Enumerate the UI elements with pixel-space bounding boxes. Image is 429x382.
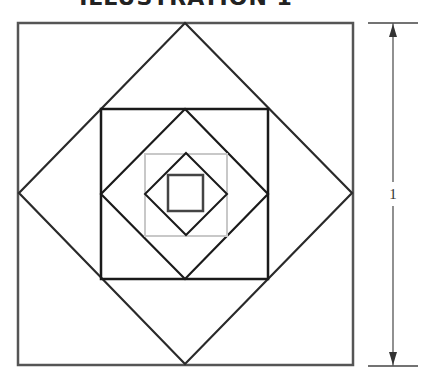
- arrow-up-icon: [389, 24, 397, 37]
- outer-square: [18, 23, 353, 365]
- nested-squares-diagram: 1: [0, 0, 429, 382]
- diamond-3: [145, 153, 227, 235]
- arrow-down-icon: [389, 352, 397, 365]
- dimension-label: 1: [389, 186, 397, 202]
- square-3: [145, 154, 227, 236]
- diamond-2: [101, 109, 268, 279]
- diamond-1: [19, 23, 352, 364]
- square-4: [168, 175, 203, 211]
- square-2: [101, 109, 268, 279]
